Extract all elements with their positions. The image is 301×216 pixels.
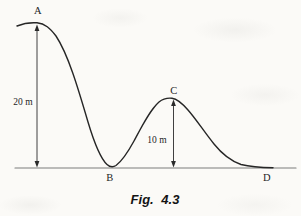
figure-caption: Fig. 4.3 bbox=[131, 192, 180, 207]
point-label-c: C bbox=[170, 86, 177, 97]
figure-canvas: A B C D 20 m 10 m Fig. 4.3 bbox=[0, 0, 301, 216]
height-label-20m: 20 m bbox=[13, 98, 32, 108]
arrowhead-down-icon bbox=[35, 161, 40, 168]
height-arrow-10m bbox=[171, 100, 176, 168]
arrowhead-down-icon bbox=[171, 161, 176, 168]
arrowhead-up-icon bbox=[35, 25, 40, 32]
profile-curve bbox=[17, 23, 273, 168]
point-label-a: A bbox=[34, 6, 42, 17]
arrowhead-up-icon bbox=[171, 100, 176, 107]
profile-diagram bbox=[0, 0, 301, 216]
height-arrow-20m bbox=[35, 25, 40, 168]
point-label-b: B bbox=[106, 173, 113, 184]
height-label-10m: 10 m bbox=[147, 136, 166, 146]
point-label-d: D bbox=[263, 173, 271, 184]
